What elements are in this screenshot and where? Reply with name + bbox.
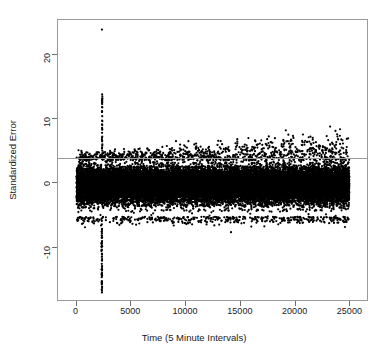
x-tick-label: 25000	[319, 306, 379, 316]
scatter-plot-figure: Standardized Error -1001020 050001000015…	[0, 0, 388, 364]
x-tick-label: 20000	[265, 306, 325, 316]
y-tick-label: 10	[42, 117, 52, 127]
data-points-layer	[58, 20, 368, 301]
y-tick-mark	[52, 182, 57, 183]
y-axis-title: Standardized Error	[7, 120, 18, 200]
x-axis-title: Time (5 Minute Intervals)	[0, 332, 388, 343]
x-tick-label: 15000	[210, 306, 270, 316]
plot-area	[57, 19, 368, 301]
x-tick-label: 5000	[100, 306, 160, 316]
x-tick-label: 0	[46, 306, 106, 316]
y-tick-label: -10	[42, 246, 52, 259]
y-tick-label: 0	[42, 181, 52, 186]
y-tick-mark	[52, 118, 57, 119]
y-tick-mark	[52, 247, 57, 248]
x-tick-label: 10000	[155, 306, 215, 316]
y-tick-label: 20	[42, 53, 52, 63]
y-tick-mark	[52, 54, 57, 55]
threshold-line	[58, 158, 367, 159]
